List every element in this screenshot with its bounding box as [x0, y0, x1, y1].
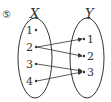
- x-point-4: [35, 80, 37, 82]
- problem-number: ⑤: [2, 9, 11, 20]
- x-element-4: 4: [26, 75, 33, 88]
- y-point-3: [83, 71, 85, 73]
- x-element-3: 3: [26, 58, 33, 71]
- y-point-2: [83, 55, 85, 57]
- x-point-1: [35, 29, 37, 31]
- y-point-1: [83, 38, 85, 40]
- arrow-3-to-3: [37, 64, 82, 71]
- arrow-4-to-3: [37, 72, 82, 81]
- mapping-diagram: ⑤ X Y 1 2 3 4 1 2 3: [0, 0, 111, 102]
- y-element-3: 3: [87, 66, 94, 79]
- y-element-1: 1: [87, 33, 94, 46]
- arrow-2-to-2: [37, 47, 82, 56]
- arrow-2-to-1: [37, 39, 82, 47]
- x-element-2: 2: [26, 41, 33, 54]
- x-element-1: 1: [26, 24, 33, 37]
- x-point-2: [35, 46, 37, 48]
- y-element-2: 2: [87, 50, 94, 63]
- x-point-3: [35, 63, 37, 65]
